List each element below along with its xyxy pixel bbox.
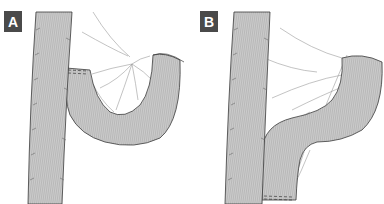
panel-a-illustration bbox=[0, 0, 192, 204]
panel-b: B bbox=[192, 0, 384, 204]
panel-a: A bbox=[0, 0, 192, 204]
s-curve-segment bbox=[262, 56, 382, 200]
panel-b-illustration bbox=[192, 0, 384, 204]
u-loop-segment bbox=[66, 54, 181, 145]
straight-segment-a bbox=[28, 12, 72, 204]
straight-segment-b bbox=[225, 12, 270, 204]
